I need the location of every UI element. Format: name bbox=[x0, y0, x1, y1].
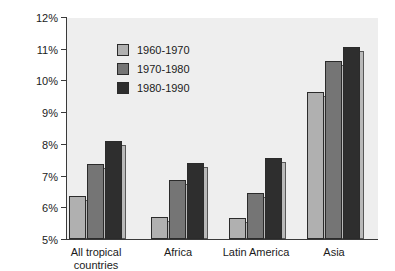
bar[interactable] bbox=[265, 158, 286, 239]
y-tick-mark bbox=[61, 176, 67, 177]
bar-group bbox=[307, 18, 364, 239]
legend-label: 1980-1990 bbox=[137, 82, 190, 94]
bar-shadow bbox=[360, 51, 364, 239]
bar-body bbox=[265, 158, 282, 239]
legend-item[interactable]: 1960-1970 bbox=[117, 41, 190, 58]
legend: 1960-19701970-19801980-1990 bbox=[117, 41, 190, 98]
bar-body bbox=[187, 163, 204, 239]
legend-swatch bbox=[117, 63, 129, 75]
bar[interactable] bbox=[343, 47, 364, 239]
bar-body bbox=[105, 141, 122, 239]
legend-swatch bbox=[117, 82, 129, 94]
bar[interactable] bbox=[105, 141, 126, 239]
y-tick-label: 8% bbox=[42, 137, 58, 153]
bar-chart: 12%11%10%9%8%7%6%5% All tropical countri… bbox=[0, 0, 395, 271]
bar-body bbox=[151, 217, 168, 239]
y-tick-mark bbox=[61, 207, 67, 208]
x-axis-label: Asia bbox=[274, 246, 394, 259]
bar-body bbox=[169, 180, 186, 239]
y-tick-label: 7% bbox=[42, 169, 58, 185]
y-tick-mark bbox=[61, 112, 67, 113]
bar-body bbox=[307, 92, 324, 239]
bar-shadow bbox=[282, 162, 286, 239]
y-tick-label: 6% bbox=[42, 200, 58, 216]
bar-body bbox=[229, 218, 246, 239]
bar-shadow bbox=[122, 145, 126, 239]
y-tick-label: 11% bbox=[37, 42, 58, 58]
y-tick-mark bbox=[61, 80, 67, 81]
bar-shadow bbox=[204, 167, 208, 239]
bar-body bbox=[325, 61, 342, 239]
legend-label: 1960-1970 bbox=[137, 44, 190, 56]
y-tick-mark bbox=[61, 144, 67, 145]
bar-body bbox=[343, 47, 360, 239]
y-tick-label: 10% bbox=[36, 73, 58, 89]
bar-body bbox=[247, 193, 264, 239]
y-tick-label: 12% bbox=[36, 10, 58, 26]
legend-label: 1970-1980 bbox=[137, 63, 190, 75]
y-tick-label: 9% bbox=[42, 105, 58, 121]
bar-body bbox=[87, 164, 104, 239]
bar[interactable] bbox=[187, 163, 208, 239]
legend-swatch bbox=[117, 44, 129, 56]
bar-group bbox=[229, 18, 286, 239]
y-tick-mark bbox=[61, 17, 67, 18]
legend-item[interactable]: 1970-1980 bbox=[117, 60, 190, 77]
y-tick-mark bbox=[61, 49, 67, 50]
legend-item[interactable]: 1980-1990 bbox=[117, 79, 190, 96]
plot-area: 12%11%10%9%8%7%6%5% bbox=[66, 18, 378, 240]
bar-body bbox=[69, 196, 86, 239]
y-tick-mark bbox=[61, 239, 67, 240]
